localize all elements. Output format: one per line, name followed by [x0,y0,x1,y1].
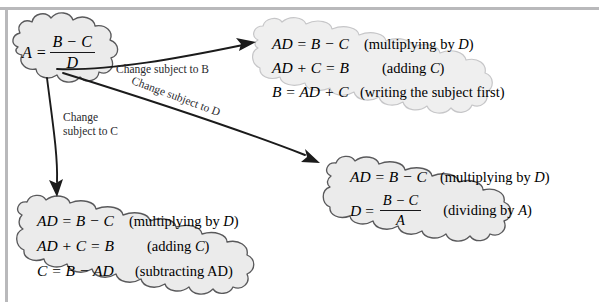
result-b-row-2: AD + C = B (adding C) [272,59,444,77]
result-c-row-1-lhs: AD = B − C [37,212,129,230]
source-equation-denominator: D [63,53,81,72]
result-b-row-2-rhs: (adding C) [382,60,444,77]
result-b-row-3: B = AD + C (writing the subject first) [272,83,505,101]
result-d-row-1-rhs-suffix: ) [545,169,550,185]
result-c-row-1: AD = B − C (multiplying by D) [37,212,239,230]
arrow-to-b-head [236,38,256,51]
result-b-row-1-rhs-prefix: (multiplying by [364,36,458,52]
result-b-row-1-rhs-suffix: ) [469,36,474,52]
arrow-label-to-b: Change subject to B [116,64,209,76]
result-b-row-2-lhs: AD + C = B [272,59,382,77]
result-d-row-2-fraction: B − C A [380,192,422,229]
result-c-row-1-rhs-italic: D [223,213,233,229]
source-equation-lhs: A [22,44,32,62]
source-equation-equals: = [36,44,47,62]
result-d-row-2-equals: = [364,202,374,220]
result-c-row-2-lhs: AD + C = B [37,237,147,255]
result-c-row-2-rhs-suffix: ) [205,238,210,254]
arrow-to-c-line [47,78,57,182]
result-c-row-3-rhs-prefix: (subtracting AD) [135,263,233,279]
source-equation-numerator: B − C [50,33,95,52]
arrow-to-d-head [301,149,320,163]
result-b-row-2-rhs-prefix: (adding [382,60,430,76]
result-d-row-1-lhs: AD = B − C [350,168,440,186]
result-d-row-2-rhs-suffix: ) [527,202,532,218]
result-c-row-1-rhs: (multiplying by D) [129,213,239,230]
result-d-row-1: AD = B − C (multiplying by D) [350,168,550,186]
result-b-row-3-lhs: B = AD + C [272,83,360,101]
arrow-label-to-c: Change subject to C [63,110,153,138]
result-d-row-1-rhs-prefix: (multiplying by [440,169,534,185]
result-c-row-2: AD + C = B (adding C) [37,237,209,255]
result-d-row-1-rhs-italic: D [534,169,544,185]
result-b-row-1-rhs: (multiplying by D) [364,36,474,53]
source-equation: A = B − C D [22,33,95,72]
result-b-row-1-lhs: AD = B − C [272,35,364,53]
result-b-row-3-rhs: (writing the subject first) [360,84,505,101]
result-b-row-1-rhs-italic: D [458,36,468,52]
arrow-label-to-c-line1: Change [63,111,98,123]
result-d-row-2: D = B − C A (dividing by A) [350,192,532,229]
result-c-row-1-rhs-prefix: (multiplying by [129,213,223,229]
result-d-row-2-lhs: D [350,202,361,220]
result-b-row-3-rhs-prefix: (writing the subject first) [360,84,505,100]
diagram-page: A = B − C D Change subject to B Change s… [0,0,599,302]
result-c-row-3-lhs: C = B − AD [37,262,135,280]
result-b-row-1: AD = B − C (multiplying by D) [272,35,474,53]
result-b-row-2-rhs-suffix: ) [440,60,445,76]
result-c-row-1-rhs-suffix: ) [234,213,239,229]
result-c-row-2-rhs: (adding C) [147,238,209,255]
result-d-row-1-rhs: (multiplying by D) [440,169,550,186]
arrow-label-to-c-line2: subject to C [63,125,118,137]
result-d-row-2-numerator: B − C [380,192,422,210]
result-c-row-3-rhs: (subtracting AD) [135,263,233,280]
result-b-row-2-rhs-italic: C [430,60,440,76]
result-d-row-2-denominator: A [393,211,408,229]
result-d-row-2-rhs-prefix: (dividing by [443,202,518,218]
result-c-row-2-rhs-italic: C [195,238,205,254]
result-d-row-2-rhs: (dividing by A) [443,202,532,219]
arrow-to-c-head [49,179,63,197]
result-d-row-2-rhs-italic: A [518,202,527,218]
result-c-row-2-rhs-prefix: (adding [147,238,195,254]
result-c-row-3: C = B − AD (subtracting AD) [37,262,233,280]
source-equation-fraction: B − C D [50,33,95,72]
